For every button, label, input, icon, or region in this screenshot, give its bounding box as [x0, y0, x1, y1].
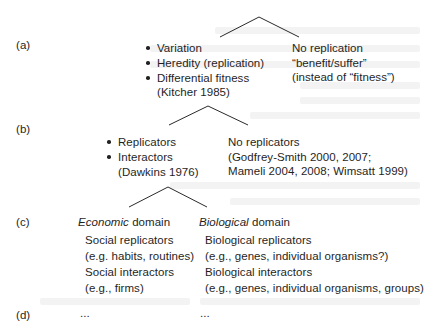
branch-line: “benefit/suffer”	[292, 56, 367, 70]
panel-label-c: (c)	[16, 215, 30, 229]
domain-heading-italic: Economic	[78, 216, 129, 228]
tree-branch-a	[220, 17, 299, 37]
panel-label-a: (a)	[16, 38, 30, 52]
panel-label-b: (b)	[16, 122, 30, 136]
branch-line: (instead of “fitness”)	[292, 70, 395, 84]
branch-line: (Godfrey-Smith 2000, 2007;	[228, 150, 371, 164]
branch-line: Social interactors	[85, 265, 174, 279]
domain-heading-italic: Biological	[199, 216, 249, 228]
branch-line: Mameli 2004, 2008; Wimsatt 1999)	[228, 164, 408, 178]
citation: (Dawkins 1976)	[118, 165, 199, 179]
ellipsis-left: ...	[80, 306, 90, 320]
branch-line: (e.g., genes, individual organisms?)	[205, 249, 388, 263]
branch-line: (e.g. habits, routines)	[85, 249, 194, 263]
list-item: Replicators	[118, 135, 176, 149]
domain-heading-economic: Economic domain	[78, 215, 170, 229]
panel-label-d: (d)	[16, 308, 30, 322]
domain-heading-rest: domain	[249, 216, 290, 228]
ellipsis-right: ...	[200, 306, 210, 320]
domain-heading-biological: Biological domain	[199, 215, 290, 229]
domain-heading-rest: domain	[129, 216, 170, 228]
branch-line: No replication	[292, 41, 363, 55]
branch-line: Biological interactors	[205, 265, 312, 279]
list-item: Interactors	[118, 150, 173, 164]
branch-line: Biological replicators	[205, 233, 312, 247]
list-item: Heredity (replication)	[157, 56, 264, 70]
branch-line: (e.g., firms)	[85, 281, 144, 295]
tree-branch-c	[129, 187, 207, 207]
branch-line: (e.g., genes, individual organisms, grou…	[205, 281, 424, 295]
list-item: Variation	[157, 41, 202, 55]
citation: (Kitcher 1985)	[157, 85, 230, 99]
tree-branch-b	[169, 106, 248, 125]
list-item: Differential fitness	[157, 71, 249, 85]
branch-line: Social replicators	[85, 233, 173, 247]
branch-line: No replicators	[228, 135, 300, 149]
